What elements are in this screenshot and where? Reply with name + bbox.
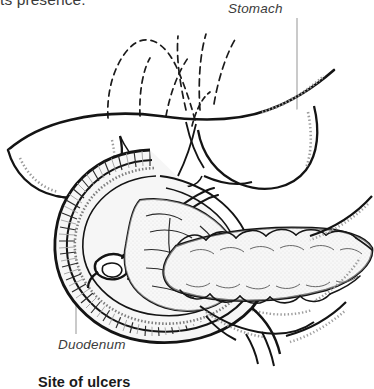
label-stomach: Stomach xyxy=(228,1,283,16)
anatomical-figure: ts presence. Stomach Duodenum Site of ul… xyxy=(0,0,374,389)
caption-site-of-ulcers: Site of ulcers xyxy=(38,374,130,389)
label-duodenum: Duodenum xyxy=(58,337,126,352)
body-text-fragment: ts presence. xyxy=(0,0,86,9)
figure-text-layer: ts presence. Stomach Duodenum Site of ul… xyxy=(0,0,374,389)
